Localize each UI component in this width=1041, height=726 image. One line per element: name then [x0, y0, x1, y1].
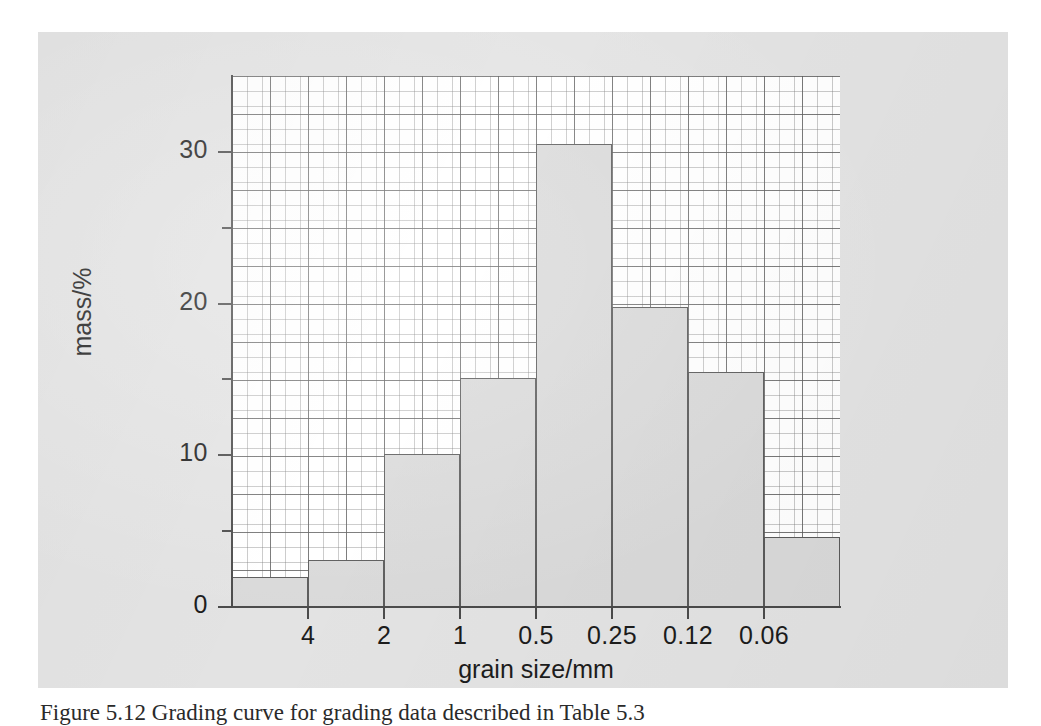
y-axis-minor-tick — [222, 227, 233, 229]
y-axis-line — [231, 75, 233, 608]
figure-panel: 0102030 4210.50.250.120.06 mass/% grain … — [38, 32, 1008, 688]
x-axis-tick-label: 0.06 — [739, 621, 789, 650]
histogram-bar — [384, 454, 460, 607]
x-axis-tick — [459, 608, 461, 619]
y-axis-title: mass/% — [68, 268, 97, 357]
y-axis-minor-tick — [222, 378, 233, 380]
histogram-bar — [232, 577, 308, 607]
histogram-bar — [536, 144, 612, 607]
x-axis-tick-label: 0.5 — [518, 621, 554, 650]
y-axis-tick — [218, 151, 233, 153]
histogram-bar — [688, 372, 764, 607]
x-axis-tick — [763, 608, 765, 619]
x-axis-tick-label: 1 — [453, 621, 467, 650]
x-axis-tick — [535, 608, 537, 619]
histogram-bar — [612, 307, 688, 607]
histogram-bar — [308, 560, 384, 607]
x-axis-tick — [383, 608, 385, 619]
plot-area — [232, 76, 840, 607]
x-axis-tick-label: 0.25 — [587, 621, 637, 650]
y-axis-tick-label: 30 — [88, 135, 208, 164]
histogram-bar — [764, 537, 840, 607]
y-axis-tick-label: 0 — [88, 590, 208, 619]
x-axis-tick-label: 2 — [377, 621, 391, 650]
x-axis-tick-label: 4 — [301, 621, 315, 650]
x-axis-tick — [687, 608, 689, 619]
x-axis-tick-label: 0.12 — [663, 621, 713, 650]
x-axis-tick — [611, 608, 613, 619]
histogram-chart: 0102030 4210.50.250.120.06 mass/% grain … — [38, 32, 1008, 688]
y-axis-tick — [218, 454, 233, 456]
y-axis-tick-label: 20 — [88, 287, 208, 316]
y-axis-tick-label: 10 — [88, 438, 208, 467]
x-axis-title: grain size/mm — [458, 655, 614, 684]
histogram-bar — [460, 378, 536, 607]
y-axis-tick — [218, 606, 233, 608]
y-axis-minor-tick — [222, 530, 233, 532]
figure-caption: Figure 5.12 Grading curve for grading da… — [40, 700, 1000, 726]
x-axis-tick — [307, 608, 309, 619]
y-axis-tick — [218, 303, 233, 305]
